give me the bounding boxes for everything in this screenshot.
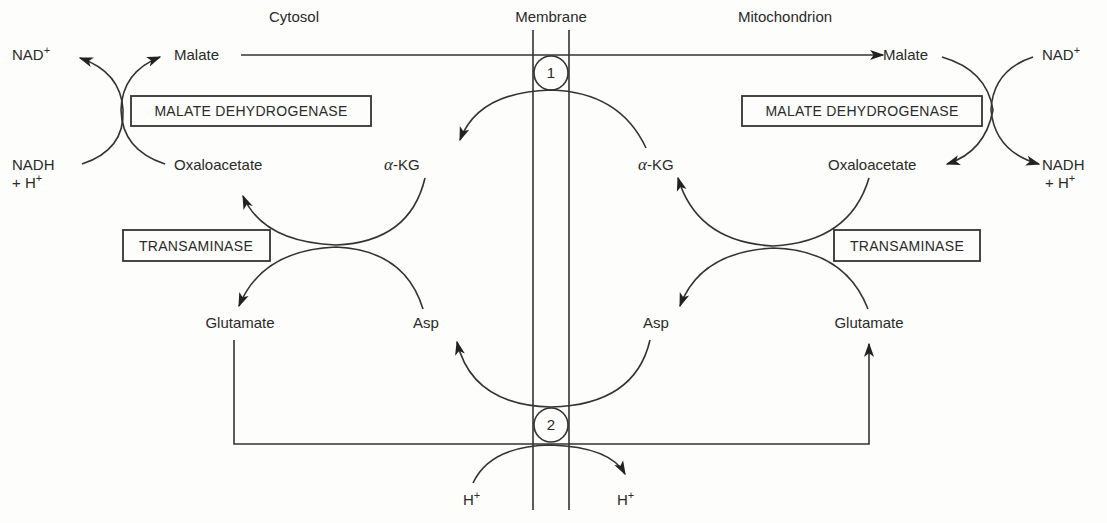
mito-oxaloacetate: Oxaloacetate — [828, 156, 916, 173]
mito-asp: Asp — [643, 314, 669, 331]
cytosol-malate-dehydrogenase-label: MALATE DEHYDROGENASE — [154, 103, 347, 119]
transporter-1-label: 1 — [547, 64, 555, 81]
mito-glutamate-to-asp-arc — [680, 248, 868, 309]
mitochondrion-header: Mitochondrion — [738, 8, 832, 25]
mito-glutamate: Glutamate — [834, 314, 903, 331]
transporter-2-label: 2 — [547, 416, 555, 433]
mito-alpha-kg: α-KG — [638, 155, 674, 174]
cytosol-nadh: NADH — [12, 156, 55, 173]
mito-nad-to-nadh-arc — [991, 57, 1039, 164]
cytosol-alpha-kg: α-KG — [384, 155, 420, 174]
cytosol-oxaloacetate: Oxaloacetate — [174, 156, 262, 173]
alpha-kg-transport-arc — [460, 90, 646, 148]
cytosol-asp: Asp — [413, 314, 439, 331]
cytosol-asp-to-glutamate-arc — [239, 247, 423, 309]
malate-aspartate-shuttle-diagram: Cytosol Membrane Mitochondrion 1 NAD+ NA… — [0, 0, 1107, 523]
cytosol-malate: Malate — [174, 46, 219, 63]
mito-nad-plus: NAD+ — [1042, 44, 1080, 63]
mito-malate: Malate — [883, 46, 928, 63]
mito-malate-dehydrogenase-label: MALATE DEHYDROGENASE — [765, 103, 958, 119]
cytosol-nadh-to-nad-arc — [80, 58, 123, 164]
cytosol-transaminase-label: TRANSAMINASE — [139, 238, 253, 254]
proton-transport-arc — [473, 445, 625, 483]
mito-oaa-to-alpha-kg-arc — [678, 178, 869, 246]
membrane-header: Membrane — [515, 8, 587, 25]
cytosol-header: Cytosol — [269, 8, 319, 25]
mito-nadh: NADH — [1042, 156, 1085, 173]
cytosol-glutamate: Glutamate — [205, 314, 274, 331]
cytosol-nad-plus: NAD+ — [12, 44, 50, 63]
proton-cytosol: H+ — [463, 489, 480, 508]
asp-transport-arc — [457, 340, 650, 407]
cytosol-nadh-h: + H+ — [12, 172, 42, 191]
mito-nadh-h: + H+ — [1045, 172, 1075, 191]
mito-transaminase-label: TRANSAMINASE — [850, 238, 964, 254]
proton-mito: H+ — [617, 489, 634, 508]
